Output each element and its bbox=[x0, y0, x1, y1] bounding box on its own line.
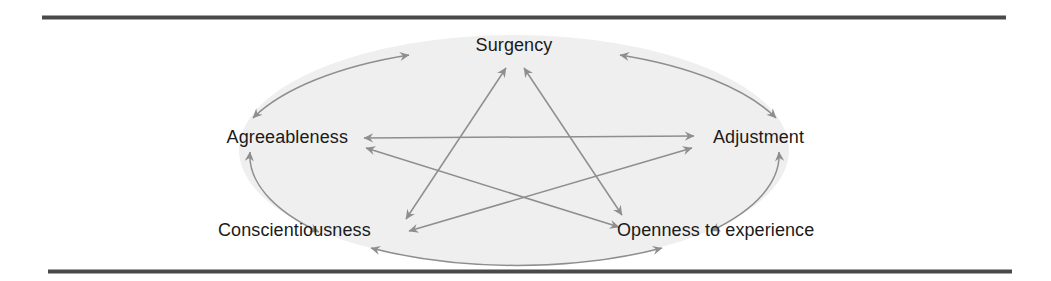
node-label-adjustment: Adjustment bbox=[713, 127, 804, 147]
node-label-surgency: Surgency bbox=[476, 35, 553, 55]
node-label-openness: Openness to experience bbox=[617, 220, 814, 240]
figure-container: Surgency Adjustment Openness to experien… bbox=[0, 0, 1051, 281]
node-label-agreeableness: Agreeableness bbox=[227, 127, 348, 147]
node-label-conscientiousness: Conscientiousness bbox=[218, 220, 371, 240]
five-factor-circumplex-diagram: Surgency Adjustment Openness to experien… bbox=[0, 0, 1051, 281]
